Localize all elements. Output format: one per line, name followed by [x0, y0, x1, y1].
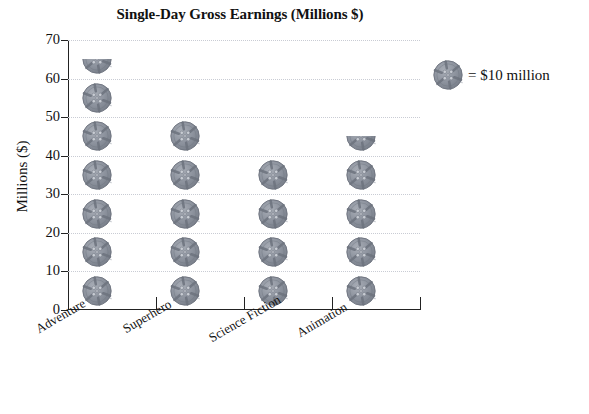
- pictograph-chart-page: Single-Day Gross Earnings (Millions $) M…: [0, 0, 589, 414]
- film-reel-icon: [82, 83, 112, 113]
- film-reel-icon: [170, 160, 200, 190]
- film-reel-icon: [82, 121, 112, 151]
- film-reel-half-icon: [346, 136, 376, 151]
- gridline: [68, 194, 420, 195]
- y-axis-tick-label: 40: [24, 148, 60, 163]
- legend: = $10 million: [433, 60, 550, 90]
- y-axis-tick-label: 60: [24, 71, 60, 86]
- y-axis-tick: [61, 117, 68, 118]
- film-reel-icon: [170, 276, 200, 306]
- y-axis-tick: [61, 40, 68, 41]
- y-axis-tick-label: 10: [24, 263, 60, 278]
- y-axis-tick: [61, 79, 68, 80]
- gridline: [68, 117, 420, 118]
- gridline: [68, 156, 420, 157]
- film-reel-half-icon: [82, 59, 112, 74]
- gridline: [68, 271, 420, 272]
- film-reel-icon: [346, 276, 376, 306]
- film-reel-icon: [346, 199, 376, 229]
- y-axis-tick-label: 70: [24, 32, 60, 47]
- gridline: [68, 79, 420, 80]
- film-reel-icon: [433, 60, 463, 90]
- film-reel-icon: [258, 237, 288, 267]
- film-reel-icon: [170, 237, 200, 267]
- y-axis-tick: [61, 194, 68, 195]
- film-reel-icon: [82, 199, 112, 229]
- legend-label: = $10 million: [468, 67, 550, 84]
- film-reel-icon: [82, 276, 112, 306]
- film-reel-icon: [258, 199, 288, 229]
- film-reel-icon: [82, 237, 112, 267]
- y-axis-tick-label: 50: [24, 109, 60, 124]
- plot-area: 010203040506070: [68, 40, 420, 310]
- y-axis-tick: [61, 233, 68, 234]
- page-title: Single-Day Gross Earnings (Millions $): [60, 6, 420, 23]
- x-axis-separator: [420, 297, 421, 310]
- film-reel-icon: [170, 121, 200, 151]
- film-reel-icon: [346, 237, 376, 267]
- film-reel-icon: [170, 199, 200, 229]
- y-axis-tick: [61, 156, 68, 157]
- y-axis-tick-label: 20: [24, 225, 60, 240]
- gridline: [68, 40, 420, 41]
- film-reel-icon: [346, 160, 376, 190]
- film-reel-icon: [82, 160, 112, 190]
- y-axis-line: [68, 40, 69, 310]
- y-axis-tick-label: 30: [24, 186, 60, 201]
- y-axis-tick: [61, 271, 68, 272]
- film-reel-icon: [258, 160, 288, 190]
- gridline: [68, 233, 420, 234]
